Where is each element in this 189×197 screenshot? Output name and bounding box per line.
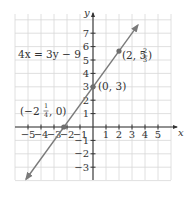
y-axis-label: y [83,7,90,18]
x-tick-label: 5 [155,129,161,140]
svg-text:3: 3 [143,56,147,64]
x-tick-label: 1 [103,129,109,140]
point-label-x-intercept: (−2 1 4 , 0) [20,102,66,119]
y-tick-label: 7 [83,28,89,39]
svg-text:2: 2 [143,47,147,55]
x-tick-label: 3 [129,129,135,140]
point-label-2-5-2-3: (2, 5 2 3 ) [122,47,152,64]
y-tick-label: −1 [74,135,89,146]
y-tick-label: −3 [74,162,89,173]
equation-label: 4x = 3y − 9 [18,48,81,60]
x-axis-label: x [178,127,184,138]
x-tick-label: 4 [142,129,148,140]
axes [15,13,177,180]
svg-text:4: 4 [44,111,48,119]
y-tick-label: 4 [83,68,89,79]
point-label-y-intercept: (0, 3) [98,80,126,92]
y-tick-label: 3 [83,81,89,92]
y-tick-label: −2 [74,148,89,159]
y-tick-label: 5 [83,55,89,66]
data-point [61,124,66,129]
x-tick-label: 2 [116,129,122,140]
coordinate-plane: −5−4−3−2−112345−3−2−11234567 x y 4x = 3y… [0,0,189,197]
data-point [90,84,95,89]
svg-text:): ) [148,49,152,61]
svg-text:, 0): , 0) [49,105,66,117]
svg-text:(−2: (−2 [20,105,40,117]
data-point [116,48,121,53]
y-tick-label: 6 [83,41,89,52]
y-tick-label: 1 [83,108,89,119]
svg-text:1: 1 [44,102,48,110]
